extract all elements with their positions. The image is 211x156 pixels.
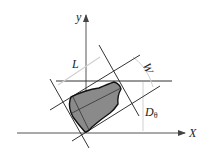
distance-label-sub: θ <box>154 111 158 120</box>
distance-label-main: D <box>145 105 154 119</box>
diagram-canvas: y X L W Dθ <box>0 0 211 156</box>
diagram-svg <box>0 0 211 156</box>
length-label: L <box>72 58 79 70</box>
particle-shape <box>69 82 121 132</box>
x-axis-label: X <box>189 127 196 139</box>
distance-label: Dθ <box>145 106 158 120</box>
y-axis-label: y <box>76 11 81 23</box>
